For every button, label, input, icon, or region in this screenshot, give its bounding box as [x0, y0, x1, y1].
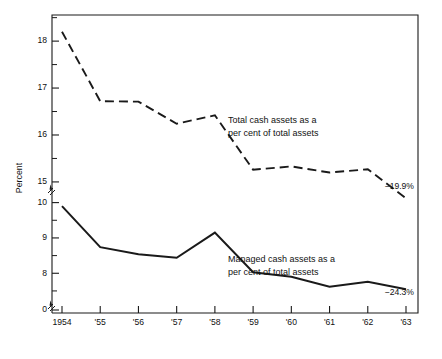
end-label-managed-cash: −24.3% [385, 287, 415, 297]
x-tick-label: '63 [400, 317, 411, 327]
data-series [62, 32, 406, 289]
x-tick-label: '60 [286, 317, 297, 327]
y-tick-label: 0 [42, 304, 47, 314]
end-label-total-cash: −19.9% [385, 181, 415, 191]
x-tick-label: 1954 [52, 317, 71, 327]
annotation-managed-cash-line2: per cent of total assets [228, 267, 319, 277]
x-tick-labels: 1954'55'56'57'58'59'60'61'62'63 [52, 317, 411, 327]
x-tick-label: '61 [324, 317, 335, 327]
y-axis-title: Percent [14, 162, 24, 193]
x-tick-label: '57 [171, 317, 182, 327]
y-tick-label: 9 [42, 232, 47, 242]
y-tick-label: 8 [42, 268, 47, 278]
x-tick-label: '62 [362, 317, 373, 327]
annotation-total-cash: Total cash assets as a per cent of total… [228, 115, 319, 138]
annotation-managed-cash: Managed cash assets as a per cent of tot… [228, 254, 335, 277]
y-tick-label: 17 [37, 82, 47, 92]
y-tick-label: 16 [37, 129, 47, 139]
annotation-total-cash-line1: Total cash assets as a [228, 115, 317, 125]
chart-container: 1817161510980 1954'55'56'57'58'59'60'61'… [0, 0, 442, 359]
line-chart: 1817161510980 1954'55'56'57'58'59'60'61'… [0, 0, 442, 359]
x-axis-ticks [62, 306, 406, 313]
x-tick-label: '56 [133, 317, 144, 327]
annotation-managed-cash-line1: Managed cash assets as a [228, 254, 335, 264]
y-tick-label: 15 [37, 176, 47, 186]
x-tick-label: '55 [95, 317, 106, 327]
annotation-total-cash-line2: per cent of total assets [228, 128, 319, 138]
x-tick-label: '58 [209, 317, 220, 327]
y-tick-label: 18 [37, 35, 47, 45]
y-tick-label: 10 [37, 197, 47, 207]
y-axis-ticks [52, 18, 59, 310]
x-tick-label: '59 [248, 317, 259, 327]
y-tick-labels: 1817161510980 [37, 35, 47, 314]
